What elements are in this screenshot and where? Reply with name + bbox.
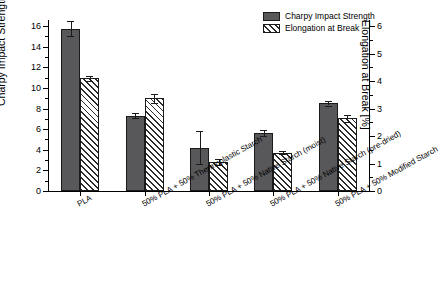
- left-tick-label-0: 0: [36, 187, 41, 196]
- left-minor-tick: [45, 78, 48, 79]
- left-minor-tick: [45, 160, 48, 161]
- legend-item-elongation-at-break: Elongation at Break: [263, 23, 375, 33]
- x-tick-2: [209, 191, 210, 196]
- legend-label-charpy-impact-strength: Charpy Impact Strength: [285, 12, 375, 21]
- errorbar-cap: [86, 76, 93, 77]
- errorbar-cap: [260, 136, 267, 137]
- errorbar-charpy-0: [71, 21, 72, 36]
- left-axis-line: [48, 20, 49, 192]
- errorbar-cap: [344, 122, 351, 123]
- left-minor-tick: [45, 119, 48, 120]
- errorbar-charpy-2: [200, 131, 201, 164]
- errorbar-cap: [151, 94, 158, 95]
- left-minor-tick: [45, 36, 48, 37]
- legend-swatch-solid: [263, 12, 280, 21]
- left-tick-label-16: 16: [31, 22, 41, 31]
- left-tick-label-8: 8: [36, 104, 41, 113]
- errorbar-cap: [67, 21, 74, 22]
- chart-legend: Charpy Impact Strength Elongation at Bre…: [263, 11, 375, 35]
- errorbar-cap: [279, 151, 286, 152]
- x-tick-3: [273, 191, 274, 196]
- errorbar-cap: [132, 113, 139, 114]
- plot-area: 0246810121416 0123456 PLA50% PLA + 50% T…: [48, 20, 370, 192]
- left-tick-8: [43, 109, 48, 110]
- x-tick-0: [80, 191, 81, 196]
- left-tick-6: [43, 129, 48, 130]
- errorbar-cap: [196, 164, 203, 165]
- bar-elongation-1: [145, 98, 164, 191]
- left-tick-label-10: 10: [31, 83, 41, 92]
- left-tick-14: [43, 47, 48, 48]
- errorbar-cap: [325, 106, 332, 107]
- left-tick-2: [43, 170, 48, 171]
- right-axis-title: Elongation at Break [%]: [360, 20, 372, 130]
- right-tick-label-6: 6: [377, 22, 382, 31]
- right-tick-label-3: 3: [377, 104, 382, 113]
- left-axis-title: Charpy Impact Strength [kJ/m2]: [0, 0, 7, 106]
- left-tick-10: [43, 88, 48, 89]
- bar-charpy-1: [126, 116, 145, 191]
- errorbar-cap: [132, 118, 139, 119]
- left-tick-4: [43, 150, 48, 151]
- x-axis-label-0: PLA: [76, 194, 93, 208]
- bar-elongation-0: [80, 78, 99, 191]
- left-tick-label-6: 6: [36, 125, 41, 134]
- left-tick-label-2: 2: [36, 166, 41, 175]
- errorbar-cap: [151, 103, 158, 104]
- right-tick-1: [370, 164, 375, 165]
- right-tick-label-4: 4: [377, 77, 382, 86]
- errorbar-elongation-1: [154, 94, 155, 102]
- bar-charpy-0: [61, 29, 80, 191]
- right-tick-label-0: 0: [377, 187, 382, 196]
- left-tick-0: [43, 191, 48, 192]
- errorbar-cap: [325, 101, 332, 102]
- left-tick-label-14: 14: [31, 42, 41, 51]
- legend-label-elongation-at-break: Elongation at Break: [285, 24, 359, 33]
- left-minor-tick: [45, 98, 48, 99]
- left-minor-tick: [45, 181, 48, 182]
- errorbar-cap: [344, 115, 351, 116]
- right-tick-label-1: 1: [377, 159, 382, 168]
- left-tick-label-4: 4: [36, 145, 41, 154]
- chart-figure: 0246810121416 0123456 PLA50% PLA + 50% T…: [0, 0, 442, 296]
- x-tick-4: [338, 191, 339, 196]
- left-tick-16: [43, 26, 48, 27]
- right-tick-0: [370, 191, 375, 192]
- legend-item-charpy-impact-strength: Charpy Impact Strength: [263, 11, 375, 21]
- left-tick-12: [43, 67, 48, 68]
- errorbar-cap: [260, 130, 267, 131]
- x-tick-1: [145, 191, 146, 196]
- left-axis-title-text: Charpy Impact Strength [kJ/m: [0, 0, 7, 106]
- left-minor-tick: [45, 57, 48, 58]
- left-minor-tick: [45, 139, 48, 140]
- right-tick-label-5: 5: [377, 49, 382, 58]
- legend-swatch-hatched: [263, 24, 280, 33]
- figure-caption: [0, 288, 442, 296]
- right-tick-2: [370, 136, 375, 137]
- errorbar-cap: [67, 36, 74, 37]
- errorbar-cap: [196, 131, 203, 132]
- errorbar-cap: [86, 81, 93, 82]
- left-tick-label-12: 12: [31, 63, 41, 72]
